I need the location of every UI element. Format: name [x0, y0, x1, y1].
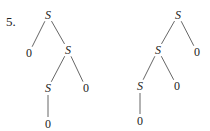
left-tree-node: S — [65, 44, 71, 56]
right-tree-node: 0 — [137, 115, 143, 127]
left-tree-edge — [71, 56, 83, 81]
left-tree-node: 0 — [26, 47, 32, 59]
left-tree-edge — [51, 21, 64, 44]
left-tree-node: S — [45, 9, 51, 21]
left-tree-node: S — [45, 82, 51, 94]
right-tree-edge — [161, 56, 173, 80]
left-tree-node: 0 — [45, 118, 51, 130]
left-tree-edge — [32, 21, 45, 46]
right-tree-node: 0 — [174, 80, 180, 92]
right-tree-node: 0 — [194, 46, 200, 58]
left-tree-edge — [51, 56, 64, 82]
right-tree-edge — [181, 21, 194, 46]
right-tree-edge — [143, 56, 155, 79]
right-tree-node: S — [155, 44, 161, 56]
right-tree-edge — [161, 21, 174, 44]
right-tree-node: S — [175, 9, 181, 21]
left-tree-node: 0 — [83, 82, 89, 94]
right-tree-node: S — [137, 80, 143, 92]
